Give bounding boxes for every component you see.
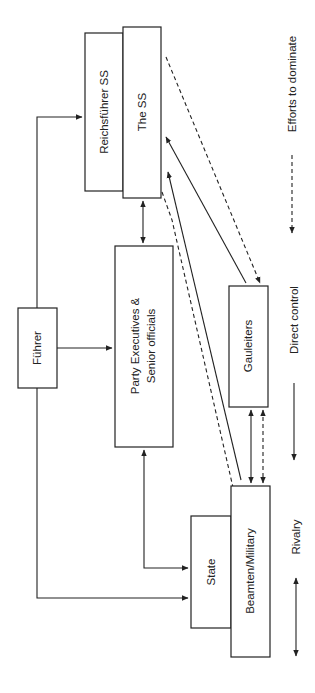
party-label-line2: Senior officials	[145, 308, 157, 383]
node-state: State	[191, 516, 231, 628]
node-the-ss: The SS	[123, 27, 161, 198]
arrow-gauleiters-to-ss	[166, 137, 246, 283]
node-reichsfuhrer-ss: Reichsführer SS	[85, 33, 123, 191]
node-fuhrer: Führer	[18, 308, 57, 388]
arrow-fuhrer-to-reichsfuhrer	[37, 117, 82, 308]
legend: Efforts to dominate Direct control Rival…	[286, 36, 302, 656]
node-gauleiters: Gauleiters	[229, 286, 268, 407]
node-party-executives: Party Executives & Senior officials	[115, 246, 173, 447]
node-beamten-military: Beamten/Military	[231, 486, 270, 657]
beamten-label: Beamten/Military	[244, 528, 256, 614]
legend-efforts-label: Efforts to dominate	[286, 36, 298, 132]
legend-direct-control-label: Direct control	[288, 286, 300, 354]
state-label: State	[205, 559, 217, 586]
the-ss-label: The SS	[136, 92, 148, 131]
rivalry-party-state	[144, 450, 188, 568]
fuhrer-label: Führer	[31, 331, 43, 365]
dominate-ss-to-gauleiters	[166, 57, 260, 283]
gauleiters-label: Gauleiters	[242, 320, 254, 373]
power-structure-diagram: Führer Reichsführer SS The SS Party Exec…	[0, 0, 315, 693]
reichsfuhrer-label: Reichsführer SS	[98, 70, 110, 154]
legend-rivalry-label: Rivalry	[290, 519, 302, 554]
party-label-line1: Party Executives &	[129, 297, 141, 394]
